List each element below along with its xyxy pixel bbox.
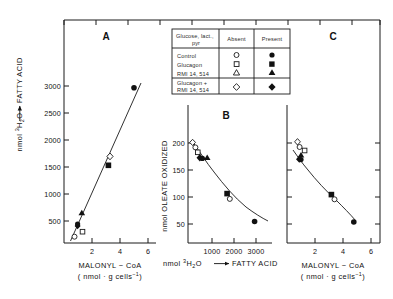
ytick-label: 100 [172,193,185,202]
point-filled-circle [131,85,137,91]
panel-c-xlabel-line2: ( nmol · g cells−1) [301,271,365,281]
point-filled-square [106,163,112,169]
legend-row-label: Glucagon + [177,80,207,86]
legend-header-col1-line1: Glucose, lact., [176,33,214,39]
legend-header-col1-line2: pyr [192,40,200,46]
panel-c-axes [287,105,380,243]
xlabel-pre: nmol [163,259,183,268]
point-filled-circle [252,219,258,225]
xtick-label: 4 [118,247,122,256]
legend-open-square-icon [234,62,239,67]
point-open-diamond [295,139,301,145]
panel-b-xtick-labels: 1000 2000 3000 [204,247,265,256]
ytick-label: 500 [48,217,61,226]
ytick-label: 2500 [44,109,61,118]
xlabel-sup: −1 [355,271,362,277]
panel-a-trendline [71,83,142,241]
panel-a-axes [64,20,156,243]
panel-b-data-points [190,139,258,224]
panel-b-label: B [222,110,229,121]
point-filled-circle [298,157,303,162]
xtick-label: 1000 [204,247,221,256]
panel-a-xlabel-line1: MALONYL − CoA [78,261,141,270]
xlabel-pre: ( nmol · g cells [78,272,132,281]
point-filled-triangle [204,155,211,161]
panel-b-ylabel: nmol OLEATE OXIDIZED [160,140,169,232]
legend-row-label: Control [177,53,196,59]
ytick-label: 2000 [44,136,61,145]
ylabel-post: FATTY ACID [15,57,24,103]
panel-c: 2 4 6 C MALONYL − CoA ( nmol · g cells−1… [287,31,380,281]
xtick-label: 3000 [248,247,265,256]
point-filled-square [224,191,230,197]
xlabel-sup: −1 [132,271,139,277]
xlabel-post: FATTY ACID [232,259,278,268]
point-open-diamond [107,153,113,160]
ytick-label: 200 [172,139,185,148]
svg-text:nmol 3H2O: nmol 3H2O [163,258,202,269]
point-open-square [302,148,307,153]
point-open-circle [227,196,232,201]
point-open-square [196,150,201,155]
point-filled-circle [75,221,80,226]
point-filled-circle [200,156,205,161]
legend-box: Glucose, lact., pyr Absent Present Contr… [172,29,290,94]
panel-a-xtick-labels: 2 4 6 [90,247,150,256]
panel-c-xlabel-line1: MALONYL − CoA [301,261,364,270]
point-open-circle [72,234,77,239]
xlabel-post: ) [362,272,365,281]
legend-header-present: Present [262,36,283,42]
ytick-label: 1000 [44,190,61,199]
legend-header-absent: Absent [227,36,246,42]
panel-b: 200 150 100 50 1000 2000 3000 B nmol OLE… [160,105,278,269]
xtick-label: 6 [369,247,373,256]
point-open-square [80,229,85,234]
xtick-label: 2000 [226,247,243,256]
panel-c-xtick-labels: 2 4 6 [313,247,373,256]
legend-open-circle-icon [234,53,239,58]
panel-b-axes [188,105,272,243]
xtick-label: 2 [313,247,317,256]
xtick-label: 2 [90,247,94,256]
panel-b-ylabel-text: nmol OLEATE OXIDIZED [160,140,169,232]
xlabel-o: O [196,259,202,268]
panel-a-xlabel-line2: ( nmol · g cells−1) [78,271,142,281]
legend-row-label: RMI 14, 514 [177,71,209,77]
xlabel-pre: ( nmol · g cells [301,272,355,281]
ytick-label: 50 [177,220,185,229]
xtick-label: 6 [146,247,150,256]
panel-a-ytick-labels: 3000 2500 2000 1500 1000 500 [44,82,61,226]
legend-row-label-line2: RMI 14, 514 [177,87,209,93]
panel-a: 3000 2500 2000 1500 1000 500 2 4 6 A nmo… [14,20,156,281]
point-filled-circle [351,219,357,225]
xlabel-post: ) [139,272,142,281]
legend-row-label: Glucagon [177,62,202,68]
ytick-label: 1500 [44,163,61,172]
point-open-circle [297,145,302,150]
legend-filled-square-icon [269,61,274,66]
legend-filled-circle-icon [269,52,274,57]
ylabel-pre: nmol [15,131,24,151]
point-filled-square [329,192,335,198]
point-open-circle [332,197,337,202]
figure-svg: 3000 2500 2000 1500 1000 500 2 4 6 A nmo… [0,0,393,299]
panel-c-label: C [329,31,336,42]
panel-a-ylabel: nmol 3H2O FATTY ACID [14,57,25,151]
ytick-label: 3000 [44,82,61,91]
figure-container: 3000 2500 2000 1500 1000 500 2 4 6 A nmo… [0,0,393,299]
panel-b-ytick-labels: 200 150 100 50 [172,139,185,229]
xtick-label: 4 [341,247,345,256]
point-open-circle [193,145,198,150]
panel-b-trendline [192,141,268,221]
panel-a-label: A [102,31,109,42]
ytick-label: 150 [172,166,185,175]
panel-b-xlabel: nmol 3H2O FATTY ACID [163,258,278,269]
